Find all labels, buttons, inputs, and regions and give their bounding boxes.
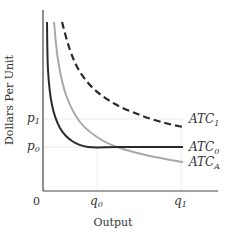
x-axis-title: Output [93,216,133,229]
atc0-label: ATC0 [188,140,219,156]
chart: ATC1 ATC0 ATCA p1 p0 0 q0 q1 Output Doll… [0,0,240,238]
y-tick-p0: p0 [27,139,40,154]
y-axis-title: Dollars Per Unit [3,54,16,144]
y-tick-p1: p1 [27,111,40,126]
atc1-curve [62,22,183,127]
origin-label: 0 [33,195,40,208]
x-tick-q1: q1 [174,194,187,209]
atc0-curve [47,22,183,147]
atc1-label: ATC1 [188,112,219,128]
x-tick-q0: q0 [90,194,103,209]
atca-label: ATCA [188,155,220,171]
